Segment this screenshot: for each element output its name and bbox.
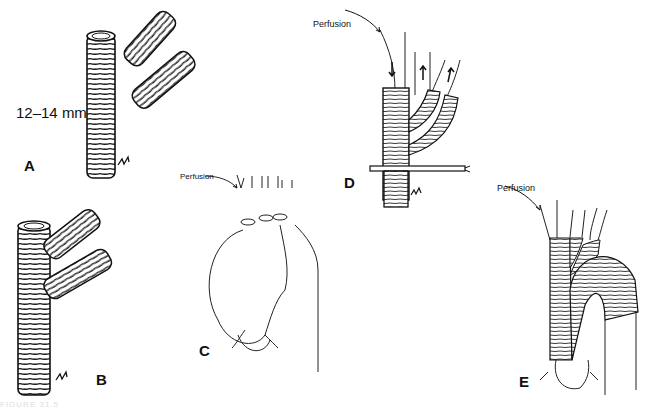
- flow-arrow-down-icon: [389, 62, 395, 76]
- perfusion-label-e: Perfusion: [497, 183, 535, 193]
- panel-c: [209, 175, 318, 372]
- perfusion-label-d: Perfusion: [313, 19, 351, 29]
- panel-label-e: E: [519, 373, 529, 390]
- panel-e: [505, 186, 638, 395]
- medical-illustration: [0, 0, 662, 408]
- initials-a-icon: [118, 157, 129, 165]
- panel-label-b: B: [96, 371, 107, 388]
- initials-d-icon: [411, 188, 421, 195]
- perfusion-label-c: Perfusion: [180, 172, 214, 181]
- panel-b: [18, 206, 114, 395]
- initials-b-icon: [56, 372, 67, 380]
- clamp-icon: [370, 166, 465, 171]
- graft-size-label: 12–14 mm: [16, 104, 87, 121]
- panel-label-d: D: [344, 174, 355, 191]
- panel-label-c: C: [199, 342, 210, 359]
- panel-a: [87, 8, 198, 178]
- flow-arrow-up-icon: [420, 66, 426, 80]
- figure-caption: FIGURE 31.5: [0, 400, 59, 408]
- panel-d: [345, 10, 470, 207]
- panel-label-a: A: [24, 157, 35, 174]
- flow-arrow-up-icon: [448, 68, 454, 82]
